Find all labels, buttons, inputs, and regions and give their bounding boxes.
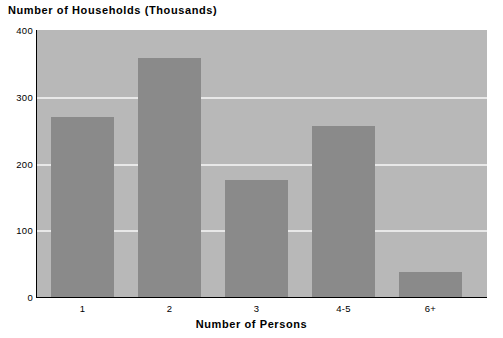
x-axis-line — [37, 297, 487, 298]
y-tick-label-100: 100 — [0, 225, 33, 236]
y-tick-label-300: 300 — [0, 91, 33, 102]
x-tick-label-6plus: 6+ — [425, 303, 436, 314]
bar-1 — [51, 117, 114, 297]
x-axis: 1 2 3 4-5 6+ — [37, 303, 487, 317]
y-tick-label-200: 200 — [0, 158, 33, 169]
chart-title: Number of Households (Thousands) — [8, 4, 217, 16]
y-tick-label-400: 400 — [0, 25, 33, 36]
x-tick-label-1: 1 — [80, 303, 86, 314]
bar-chart: Number of Households (Thousands) 400 300… — [0, 0, 503, 338]
bar-2 — [138, 58, 201, 297]
bar-3 — [225, 180, 288, 297]
y-tick-label-0: 0 — [0, 292, 33, 303]
y-axis-line — [36, 30, 37, 298]
bar-5 — [399, 272, 462, 297]
plot-area — [37, 30, 487, 297]
x-tick-label-3: 3 — [254, 303, 260, 314]
gridline-300 — [37, 97, 487, 99]
x-tick-label-2: 2 — [167, 303, 173, 314]
x-axis-title: Number of Persons — [0, 318, 503, 330]
x-tick-label-4-5: 4-5 — [336, 303, 351, 314]
bar-4 — [312, 126, 375, 297]
y-axis: 400 300 200 100 0 — [0, 0, 33, 338]
